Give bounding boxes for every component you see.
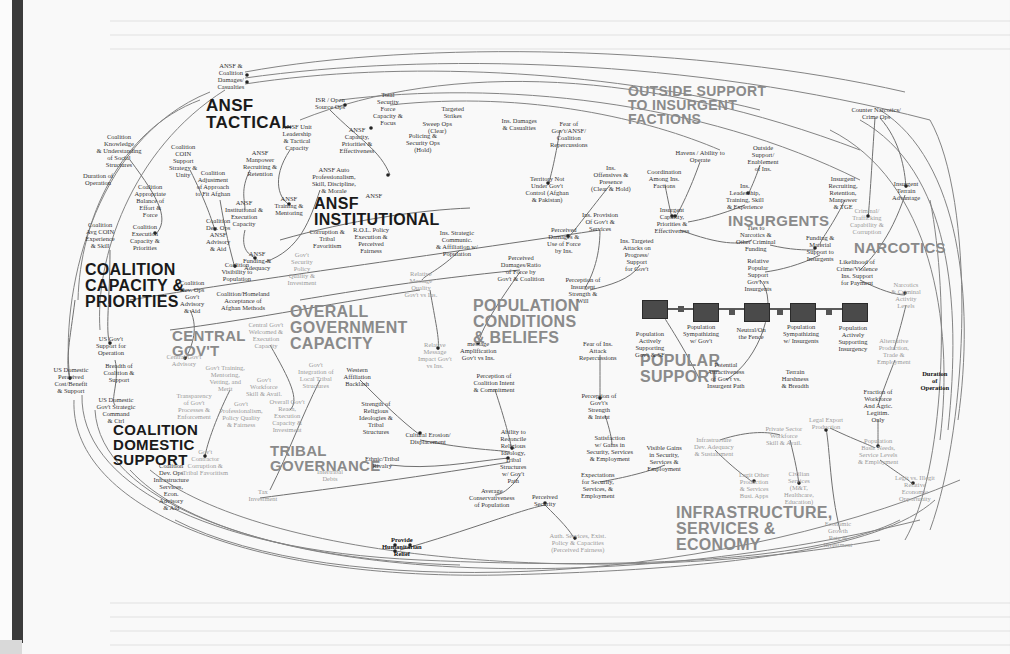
diagram-node: Cultural Erosion/ Displacement <box>406 431 451 445</box>
diagram-node: ANSF Capacity, Priorities & Effectivenes… <box>340 126 375 154</box>
diagram-node: Legit Other Production & Services Busi. … <box>739 471 769 499</box>
diagram-node: Insurgent Capacity, Priorities & Effecti… <box>655 206 690 234</box>
diagram-node: Coalition Visibility to Population <box>222 261 253 282</box>
diagram-node: Central Gov't Welcomed & Execution Capac… <box>249 321 284 349</box>
diagram-node: Provide Humanitarian Relief <box>382 536 422 557</box>
diagram-node: ISR / Open Source Ops <box>315 96 345 110</box>
flow-valve-icon <box>826 309 832 315</box>
diagram-node: Average Conservativeness of Population <box>469 487 515 508</box>
diagram-node: US Gov't Support for Operation <box>96 335 126 356</box>
diagram-node: Fear of Gov't/ANSF/ Coalition Repercussi… <box>550 120 588 148</box>
diagram-node: Duration of Operation <box>921 370 950 391</box>
diagram-node: Economic Growth Rate & Investment <box>824 520 853 548</box>
diagram-node: Alternative Production, Trade & Employme… <box>877 337 911 365</box>
diagram-node: Coalition Dev. Ops ANSF Advisory & Aid <box>206 217 230 252</box>
diagram-node: Duration of Operation <box>83 172 113 186</box>
diagram-node: Population Actively Supporting Gov't & S… <box>635 330 665 358</box>
diagram-node: Auth. Services, Exist. Policy & Capaciti… <box>550 532 607 553</box>
diagram-node: Visible Gains in Security, Services & Em… <box>647 444 682 472</box>
diagram-node: Coalition Execution Capacity & Prioritie… <box>130 223 160 251</box>
diagram-node: message Amplification Gov't vs Ins. <box>460 340 496 361</box>
stock-box <box>744 303 770 322</box>
diagram-node: ANSF Unit Leadership & Tactical Capacity <box>282 123 312 151</box>
cluster-label-narcotics: NARCOTICS <box>854 240 946 255</box>
diagram-node: US Domestic Perceived Cost/Benefit & Sup… <box>54 366 89 394</box>
diagram-node: Neutral/On the Fence <box>737 326 766 340</box>
diagram-node: Territory Not Under Gov't Control (Afgha… <box>526 175 569 203</box>
diagram-node: US Domestic Gov't Strategic Command & Ct… <box>97 396 136 424</box>
cluster-label-outside-support: OUTSIDE SUPPORT TO INSURGENT FACTIONS <box>628 84 766 126</box>
diagram-node: Overall Gov't Reach, Execution Capacity … <box>270 398 305 433</box>
diagram-node: Expectations for Security, Services, & E… <box>581 471 615 499</box>
diagram-node: ANSF Auto Professionalism, Skill, Discip… <box>312 166 356 194</box>
diagram-node: Coalition Avg COIN Experience & Skill <box>86 221 115 249</box>
cluster-label-ansf-tactical: ANSF TACTICAL <box>206 97 292 131</box>
diagram-node: Insurgent Recruiting, Retention, Manpowe… <box>829 175 858 210</box>
diagram-node: Perception of Gov't's Strength & Intent <box>582 392 617 420</box>
diagram-node: Perception of Coalition Intent & Commitm… <box>474 372 515 393</box>
diagram-node: Strength of Religious Ideologies & Triba… <box>359 400 393 435</box>
stock-box <box>842 303 868 322</box>
flow-valve-icon <box>678 306 684 312</box>
diagram-node: Gov't Professionalism, Policy Quality & … <box>220 400 263 428</box>
diagram-node: Potential Attractiveness of Gov't vs. In… <box>707 361 745 389</box>
diagram-node: ANSF & Coalition Damages/ Casualties <box>218 62 245 90</box>
diagram-node: Breadth of Coalition & Support <box>104 362 135 383</box>
diagram-node: Criminal/ Trafficking Capability & Corru… <box>850 207 884 235</box>
flow-valve-icon <box>777 309 783 315</box>
diagram-node: R.O.L. Policy Execution & Perceived Fair… <box>353 226 389 254</box>
diagram-node: Civilian Services (M&T, Healthcare, Educ… <box>784 470 814 505</box>
stock-box <box>693 303 719 322</box>
diagram-node: Gov't Contractor Corruption & Tribal Fav… <box>183 448 228 476</box>
stock-box <box>642 300 668 319</box>
diagram-node: Narcotics & Criminal Activity Levels <box>891 281 921 309</box>
diagram-node: Fear of Ins. Attack Repercussions <box>579 340 617 361</box>
diagram-node: Relative Message Quality Gov't vs Ins. <box>405 270 438 298</box>
diagram-node: Infrastructure Dev. Adequacy & Sustainme… <box>694 436 734 457</box>
diagram-node: Gov't Security Policy Quality & Investme… <box>288 251 317 286</box>
diagram-node: Ins. Provision Of Gov't & Services <box>582 211 618 232</box>
diagram-node: Tax Investment <box>249 488 278 502</box>
diagram-node: ANSF <box>366 192 383 199</box>
diagram-node: Corruption & Tribal Favoritism <box>310 228 345 249</box>
diagram-node: Coalition Knowledge & Understanding of S… <box>97 133 142 168</box>
diagram-node: Coordination Among Ins. Factions <box>647 168 681 189</box>
diagram-node: Fraction of Workforce And Agric. Legitim… <box>864 388 893 423</box>
diagram-node: ANSF Training & Mentoring <box>275 195 304 216</box>
diagram-node: Counter Narcotics/ Crime Ops <box>852 106 901 120</box>
diagram-node: Ability to Reconcile Religious Ideology,… <box>500 428 526 484</box>
diagram-node: Coalition Dev. Ops Gov't Advisory & Aid <box>180 279 204 314</box>
diagram-node: Legit vs. Illegit Relative Economic Oppo… <box>895 474 935 502</box>
diagram-node: Western Affiliation Backlash <box>344 366 371 387</box>
diagram-node: Gov't Workforce Skill & Avail. <box>246 376 282 397</box>
diagram-node: Private Sector Workforce Skill & Avail. <box>766 425 803 446</box>
diagram-node: Havens / Ability to Operate <box>676 149 725 163</box>
diagram-node: Relative Popular Support Gov't vs Insurg… <box>745 257 772 292</box>
diagram-node: Insurgent Terrain Advantage <box>892 180 920 201</box>
diagram-node: Terrain Harshness & Breadth <box>782 368 809 389</box>
diagram-node: Gov't Integration of Local Tribal Struct… <box>298 361 334 389</box>
diagram-node: ANSF Institutional & Execution Capacity <box>225 199 263 227</box>
diagram-node: Perceived Security <box>532 493 558 507</box>
diagram-node: Population Basic Needs, Service Levels &… <box>858 437 898 465</box>
diagram-node: Ethnic/Tribal Rivalry <box>365 455 399 469</box>
diagram-node: Targeted Strikes <box>442 105 465 119</box>
diagram-node: Population Actively Supporting Insurgenc… <box>839 324 868 352</box>
diagram-node: Ins. Leadership, Training, Skill & Exper… <box>726 182 764 210</box>
diagram-node: Coalition Appropriate Balance of Effort … <box>135 183 166 218</box>
diagram-node: Coalition/Homeland Acceptance of Afghan … <box>217 290 270 311</box>
diagram-node: ANSF Manpower Recruiting & Retention <box>243 149 277 177</box>
diagram-node: Coalition Adjustment of Approach to Fit … <box>196 169 231 197</box>
cluster-label-coalition-capacity: COALITION CAPACITY & PRIORITIES <box>85 262 184 310</box>
diagram-node: Total Security Force Capacity & Focus <box>373 91 403 126</box>
diagram-node: Perceived Damages/Ratio of Force by Gov'… <box>498 254 545 282</box>
diagram-node: Gov't Training, Mentoring, Vetting, and … <box>206 364 245 392</box>
cluster-label-overall-government: OVERALL GOVERNMENT CAPACITY <box>290 304 408 352</box>
diagram-node: Ins. Strategic Communic. & Affiliation w… <box>436 229 478 257</box>
diagram-node: Central Gov't Advisory <box>167 353 202 367</box>
diagram-node: Ins. Targeted Attacks on Progress/ Suppo… <box>620 237 654 272</box>
diagram-node: Perceived Damages & Use of Force by Ins. <box>547 226 581 254</box>
diagram-node: Satisfaction w/ Gains in Security, Servi… <box>587 434 634 462</box>
diagram-node: Population Sympathizing w/ Gov't <box>683 323 719 344</box>
diagram-node: Outside Support/ Enablement of Ins. <box>748 144 779 172</box>
